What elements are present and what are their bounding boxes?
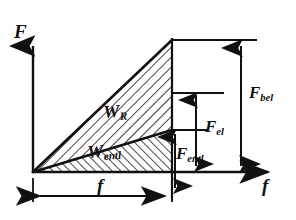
deflection-axis-label: f bbox=[262, 176, 268, 195]
area-label-W_R: WR bbox=[103, 101, 128, 121]
force-deflection-diagram bbox=[0, 0, 296, 220]
force-label-F_bel: Fbel bbox=[249, 84, 273, 101]
dimension-label-f: f bbox=[97, 176, 103, 195]
force-label-F_el: Fel bbox=[205, 118, 224, 135]
force-label-F_entl: Fentl bbox=[176, 145, 204, 162]
force-axis-label: F bbox=[14, 22, 27, 41]
area-label-W_entl: Wentl bbox=[87, 141, 122, 161]
